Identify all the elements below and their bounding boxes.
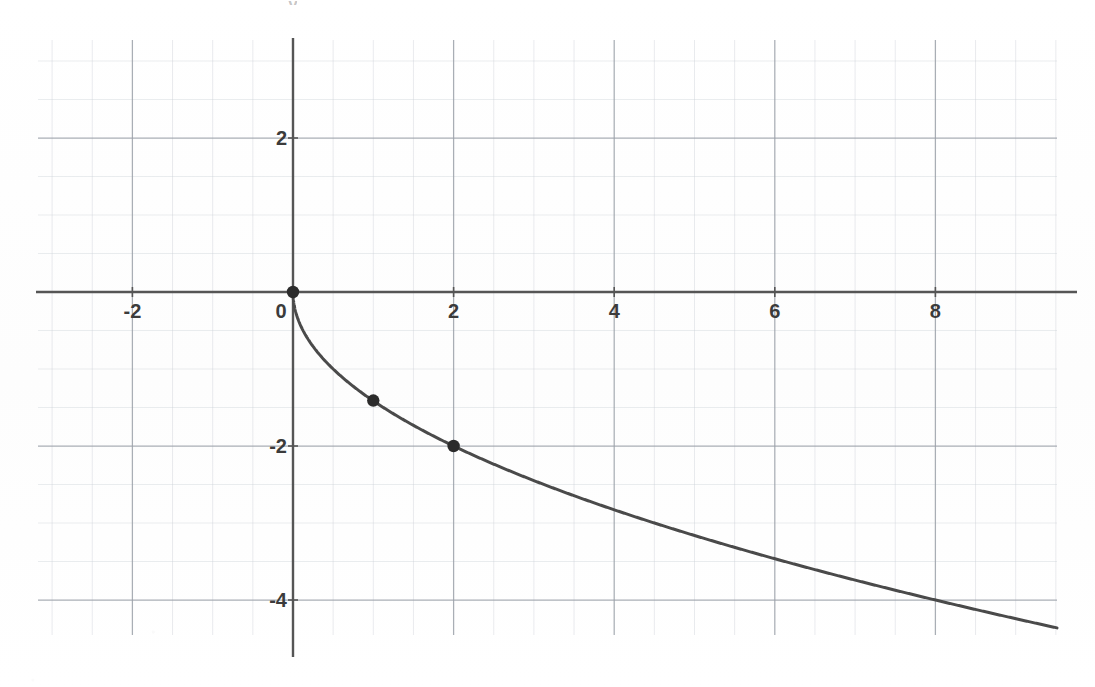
y-axis-label: y xyxy=(288,0,297,5)
y-tick-label: -4 xyxy=(269,590,287,610)
x-tick-label: 6 xyxy=(769,301,780,321)
minor-gridlines xyxy=(38,40,1057,635)
x-tick-label: 0 xyxy=(275,301,286,321)
plot-canvas xyxy=(0,0,1095,687)
x-tick-label: 2 xyxy=(448,301,459,321)
major-gridlines xyxy=(38,40,1057,635)
y-tick-label: 2 xyxy=(276,128,287,148)
y-tick-label: -2 xyxy=(269,436,287,456)
x-tick-label: 8 xyxy=(930,301,941,321)
function-curve xyxy=(293,292,1057,628)
axes xyxy=(36,38,1077,657)
x-tick-label: -2 xyxy=(123,301,141,321)
graph-figure: -2024682-2-4 y xyxy=(0,0,1095,687)
x-tick-label: 4 xyxy=(609,301,620,321)
